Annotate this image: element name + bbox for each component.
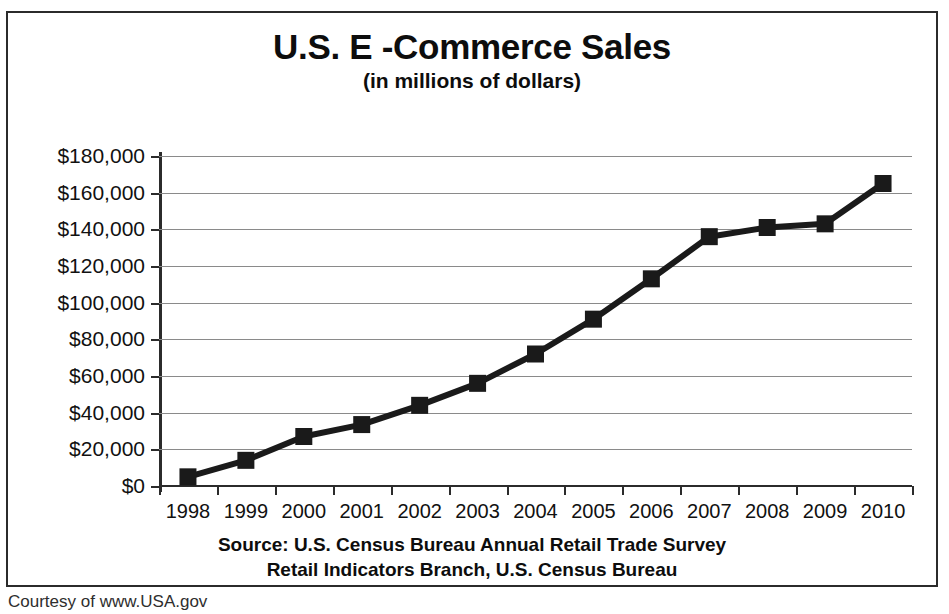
y-axis-label: $160,000 bbox=[57, 181, 145, 205]
y-axis-tick bbox=[151, 339, 159, 341]
y-axis-tick bbox=[151, 413, 159, 415]
data-point-marker bbox=[527, 346, 544, 363]
x-axis-tick bbox=[159, 486, 161, 495]
data-point-marker bbox=[875, 175, 892, 192]
x-axis-label: 2006 bbox=[629, 500, 674, 523]
data-point-marker bbox=[411, 397, 428, 414]
x-axis-label: 2000 bbox=[282, 500, 327, 523]
x-axis-tick bbox=[507, 486, 509, 495]
y-axis-tick bbox=[151, 449, 159, 451]
y-axis-label: $60,000 bbox=[69, 364, 145, 388]
x-axis-label: 2005 bbox=[571, 500, 616, 523]
data-point-marker bbox=[353, 416, 370, 433]
x-axis-label: 2010 bbox=[861, 500, 906, 523]
y-axis-label: $80,000 bbox=[69, 327, 145, 351]
source-note: Source: U.S. Census Bureau Annual Retail… bbox=[8, 532, 936, 583]
x-axis-label: 2007 bbox=[687, 500, 732, 523]
x-axis-tick bbox=[333, 486, 335, 495]
x-axis-tick bbox=[738, 486, 740, 495]
source-line-2: Retail Indicators Branch, U.S. Census Bu… bbox=[8, 557, 936, 582]
data-point-marker bbox=[237, 452, 254, 469]
x-axis-label: 1999 bbox=[224, 500, 269, 523]
x-axis-tick bbox=[564, 486, 566, 495]
y-axis-tick bbox=[151, 486, 159, 488]
x-axis-label: 2001 bbox=[339, 500, 384, 523]
y-axis-label: $180,000 bbox=[57, 144, 145, 168]
data-point-marker bbox=[295, 428, 312, 445]
x-axis-label: 2004 bbox=[513, 500, 558, 523]
data-point-marker bbox=[701, 228, 718, 245]
y-axis-label: $20,000 bbox=[69, 437, 145, 461]
x-axis-label: 2002 bbox=[397, 500, 442, 523]
plot-area: $0$20,000$40,000$60,000$80,000$100,000$1… bbox=[159, 156, 912, 486]
y-axis-label: $120,000 bbox=[57, 254, 145, 278]
x-axis-label: 1998 bbox=[166, 500, 211, 523]
x-axis-tick bbox=[449, 486, 451, 495]
x-axis-label: 2003 bbox=[455, 500, 500, 523]
x-axis-tick bbox=[391, 486, 393, 495]
y-axis-tick bbox=[151, 156, 159, 158]
x-axis-tick bbox=[796, 486, 798, 495]
data-point-marker bbox=[643, 270, 660, 287]
source-line-1: Source: U.S. Census Bureau Annual Retail… bbox=[8, 532, 936, 557]
y-axis-tick bbox=[151, 303, 159, 305]
y-axis-tick bbox=[151, 266, 159, 268]
plot-wrapper: $0$20,000$40,000$60,000$80,000$100,000$1… bbox=[8, 13, 936, 585]
data-point-marker bbox=[469, 375, 486, 392]
y-axis-label: $100,000 bbox=[57, 291, 145, 315]
x-axis-tick bbox=[680, 486, 682, 495]
x-axis-tick bbox=[912, 486, 914, 495]
data-point-marker bbox=[585, 311, 602, 328]
y-axis-tick bbox=[151, 193, 159, 195]
data-point-marker bbox=[759, 219, 776, 236]
data-point-marker bbox=[817, 215, 834, 232]
y-axis-label: $140,000 bbox=[57, 217, 145, 241]
x-axis-tick bbox=[275, 486, 277, 495]
data-series bbox=[159, 156, 912, 486]
x-axis-tick bbox=[622, 486, 624, 495]
x-axis-label: 2009 bbox=[803, 500, 848, 523]
courtesy-note: Courtesy of www.USA.gov bbox=[8, 592, 207, 612]
scanned-page: U.S. E -Commerce Sales (in millions of d… bbox=[0, 0, 949, 614]
chart-frame: U.S. E -Commerce Sales (in millions of d… bbox=[6, 11, 938, 587]
x-axis-label: 2008 bbox=[745, 500, 790, 523]
x-axis-tick bbox=[854, 486, 856, 495]
y-axis-tick bbox=[151, 229, 159, 231]
x-axis-tick bbox=[217, 486, 219, 495]
data-point-marker bbox=[179, 468, 196, 485]
y-axis-tick bbox=[151, 376, 159, 378]
y-axis-label: $0 bbox=[122, 474, 145, 498]
y-axis-label: $40,000 bbox=[69, 401, 145, 425]
series-line bbox=[188, 184, 883, 477]
